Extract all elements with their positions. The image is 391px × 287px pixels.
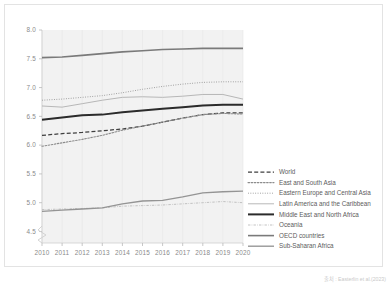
y-axis-tick-label: 4.5 xyxy=(27,228,37,235)
x-axis-tick-label: 2018 xyxy=(195,249,210,256)
y-axis-tick-label: 5.0 xyxy=(27,199,37,206)
x-axis-tick-label: 2020 xyxy=(235,249,250,256)
x-axis-tick-label: 2011 xyxy=(55,249,70,256)
chart-figure: 4.55.05.56.06.57.07.58.0 201020112012201… xyxy=(0,0,391,287)
x-axis-tick-label: 2017 xyxy=(175,249,190,256)
legend-label[interactable]: Oceania xyxy=(279,221,303,228)
legend-label[interactable]: Latin America and the Caribbean xyxy=(279,200,371,207)
x-axis-tick-label: 2015 xyxy=(135,249,150,256)
x-axis-tick-label: 2014 xyxy=(115,249,130,256)
y-axis-ticks: 4.55.05.56.06.57.07.58.0 xyxy=(27,26,42,234)
legend-label[interactable]: Sub-Saharan Africa xyxy=(279,242,334,249)
chart-legend: WorldEast and South AsiaEastern Europe a… xyxy=(248,168,371,249)
source-credit: 출처 : Easterlin et al.(2023) xyxy=(324,275,386,283)
y-axis-tick-label: 7.0 xyxy=(27,84,37,91)
legend-label[interactable]: World xyxy=(279,168,296,175)
y-axis-tick-label: 6.0 xyxy=(27,141,37,148)
legend-label[interactable]: East and South Asia xyxy=(279,179,336,186)
legend-label[interactable]: Eastern Europe and Central Asia xyxy=(279,189,371,197)
x-axis-tick-label: 2013 xyxy=(95,249,110,256)
y-axis-tick-label: 5.5 xyxy=(27,170,37,177)
x-axis-tick-label: 2012 xyxy=(75,249,90,256)
y-axis-tick-label: 8.0 xyxy=(27,26,37,33)
legend-label[interactable]: OECD countries xyxy=(279,232,325,239)
x-axis-tick-label: 2019 xyxy=(215,249,230,256)
x-axis-tick-label: 2016 xyxy=(155,249,170,256)
y-axis-tick-label: 6.5 xyxy=(27,113,37,120)
x-axis-tick-label: 2010 xyxy=(34,249,49,256)
x-axis-ticks: 2010201120122013201420152016201720182019… xyxy=(34,243,250,256)
legend-label[interactable]: Middle East and North Africa xyxy=(279,211,359,218)
line-chart: 4.55.05.56.06.57.07.58.0 201020112012201… xyxy=(0,0,391,287)
y-axis-tick-label: 7.5 xyxy=(27,55,37,62)
